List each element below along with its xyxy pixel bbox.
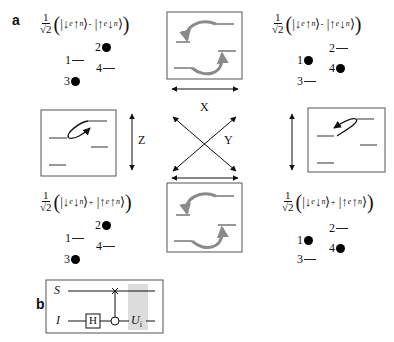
wire-label-i: I [56,313,60,328]
x-label: X [200,100,209,115]
x-swap-box-bottom [167,183,242,252]
unitary-gate: Ui [131,313,142,329]
hadamard-gate: H [89,314,97,326]
z-box-right [308,108,385,172]
z-box-left [41,110,116,176]
z-label: Z [138,133,145,148]
wire-label-s: S [54,283,60,298]
x-swap-box-top [167,12,242,79]
y-label: Y [224,133,233,148]
quantum-circuit [46,280,163,333]
